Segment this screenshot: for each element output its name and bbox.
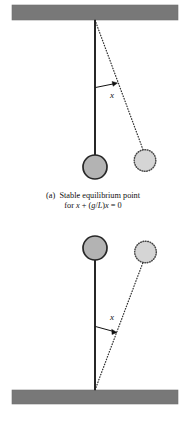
ceiling-bar xyxy=(12,5,178,20)
stable-equilibrium-diagram: x xyxy=(0,0,186,213)
pendulum-bob xyxy=(83,236,107,260)
caption-stable-eq-equals: = 0 xyxy=(109,201,122,210)
angle-label-x: x xyxy=(109,312,114,322)
caption-stable: (a)Stable equilibrium point for x + (g/L… xyxy=(0,191,186,210)
displaced-bob-dotted xyxy=(134,150,156,172)
caption-stable-eq-prefix: for xyxy=(64,201,76,210)
caption-stable-text: Stable equilibrium point xyxy=(59,191,140,200)
caption-stable-label: (a) xyxy=(46,191,56,200)
caption-stable-line2: for x + (g/L)x = 0 xyxy=(0,201,186,211)
pendulum-bob xyxy=(83,155,107,179)
angle-arrow xyxy=(96,84,115,88)
angle-arrow xyxy=(96,327,115,332)
panel-unstable-equilibrium: x (b)Unstable equilibrium point for x − … xyxy=(0,213,186,421)
angle-arrow-head xyxy=(112,81,118,86)
floor-bar xyxy=(12,390,178,404)
angle-label-x: x xyxy=(109,90,114,100)
displaced-rod-dotted xyxy=(95,20,144,151)
panel-stable-equilibrium: x (a)Stable equilibrium point for x + (g… xyxy=(0,0,186,213)
caption-stable-line1: (a)Stable equilibrium point xyxy=(0,191,186,201)
unstable-equilibrium-diagram: x xyxy=(0,213,186,421)
pendulum-equilibrium-figure: x (a)Stable equilibrium point for x + (g… xyxy=(0,0,186,421)
caption-stable-eq-plus: + ( xyxy=(80,201,92,210)
displaced-bob-dotted xyxy=(135,241,157,263)
caption-stable-eq-xddot: x xyxy=(76,201,80,211)
displaced-rod-dotted xyxy=(95,261,144,390)
